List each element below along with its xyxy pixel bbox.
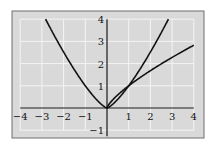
x-tick-label: −4 [13, 111, 28, 122]
graph-plot: −4−3−2−11234−11234 [0, 0, 211, 147]
x-tick-label: −3 [35, 111, 50, 122]
y-tick-label: 3 [98, 36, 104, 47]
y-tick-label: 4 [98, 14, 104, 25]
x-tick-label: −2 [56, 111, 71, 122]
x-tick-label: −1 [78, 111, 93, 122]
x-tick-label: 4 [191, 111, 197, 122]
x-tick-label: 3 [169, 111, 175, 122]
x-tick-label: 2 [147, 111, 153, 122]
y-tick-label: −1 [89, 125, 104, 136]
x-tick-label: 1 [126, 111, 132, 122]
y-tick-label: 2 [98, 59, 104, 70]
y-tick-label: 1 [98, 81, 104, 92]
